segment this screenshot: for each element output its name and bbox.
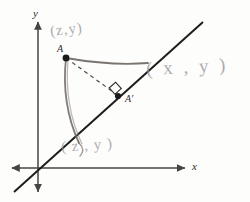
y-axis-label: y [33,8,38,19]
geometry-figure: y x A A' (z,y) ( x , y ) ( z , y ) [0,0,250,202]
x-axis-label: x [192,161,197,172]
reflection-line [14,22,203,192]
point-a-prime-marker [115,93,121,99]
point-a-prime-label: A' [125,94,133,104]
point-a-marker [63,55,70,62]
annotation-right-coordinates: ( x , y ) [146,55,229,78]
point-a-label: A [57,44,63,54]
right-angle-square [109,82,121,94]
pen-stroke-upper [66,58,148,64]
